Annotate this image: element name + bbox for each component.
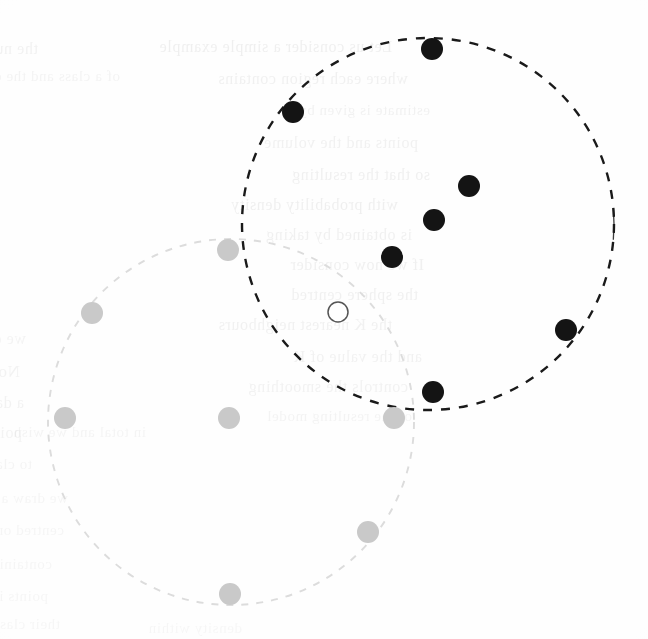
series-light-class-points — [54, 239, 405, 605]
data-point — [458, 175, 480, 197]
data-point — [218, 407, 240, 429]
data-point — [423, 209, 445, 231]
data-point — [555, 319, 577, 341]
boundary-ink-artifact — [613, 208, 614, 240]
data-point — [217, 239, 239, 261]
data-point — [422, 381, 444, 403]
cluster-diagram — [0, 0, 648, 639]
data-point — [381, 246, 403, 268]
data-point — [421, 38, 443, 60]
data-point — [219, 583, 241, 605]
series-query-point — [328, 302, 348, 322]
data-point — [81, 302, 103, 324]
data-point — [383, 407, 405, 429]
data-point — [357, 521, 379, 543]
series-dark-class-points — [282, 38, 577, 403]
data-point — [328, 302, 348, 322]
data-point — [54, 407, 76, 429]
scanned-figure-page: the number of points in the regionLet us… — [0, 0, 648, 639]
data-point — [282, 101, 304, 123]
